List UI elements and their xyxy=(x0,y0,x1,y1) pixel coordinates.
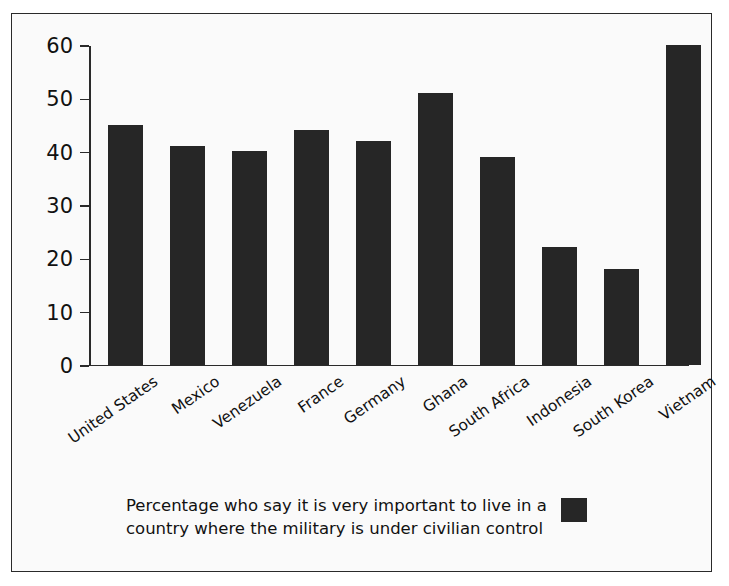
y-axis-tick: 30 xyxy=(80,205,89,207)
x-axis-category-label: Vietnam xyxy=(657,374,719,424)
x-axis-category-label: Ghana xyxy=(420,374,470,416)
chart-figure: 0102030405060 United StatesMexicoVenezue… xyxy=(11,13,712,572)
x-axis-category-label: France xyxy=(295,374,346,416)
y-axis-line xyxy=(89,46,91,366)
legend-caption: Percentage who say it is very important … xyxy=(126,495,547,541)
x-axis-category-label: Germany xyxy=(341,374,408,428)
y-axis-tick: 40 xyxy=(80,152,89,154)
plot-area: 0102030405060 xyxy=(89,46,689,366)
y-axis-tick: 50 xyxy=(80,99,89,101)
x-axis-line xyxy=(89,365,689,367)
bar xyxy=(356,141,391,365)
chart-legend: Percentage who say it is very important … xyxy=(126,495,686,541)
bar xyxy=(480,157,515,365)
bar xyxy=(604,269,639,365)
y-axis-tick-label: 40 xyxy=(46,142,73,163)
y-axis-tick: 60 xyxy=(80,45,89,47)
bar xyxy=(542,247,577,364)
x-axis-category-label: United States xyxy=(66,374,161,447)
legend-color-swatch xyxy=(561,498,587,522)
y-axis-tick-label: 60 xyxy=(46,36,73,57)
y-axis-tick-label: 20 xyxy=(46,249,73,270)
y-axis-tick-label: 30 xyxy=(46,196,73,217)
bar xyxy=(108,125,143,365)
legend-caption-line-1: Percentage who say it is very important … xyxy=(126,495,547,518)
bar xyxy=(294,130,329,365)
bar xyxy=(418,93,453,365)
bar xyxy=(170,146,205,365)
legend-caption-line-2: country where the military is under civi… xyxy=(126,518,547,541)
y-axis-tick-label: 10 xyxy=(46,302,73,323)
x-axis-category-label: Venezuela xyxy=(210,374,284,432)
bar xyxy=(666,45,701,365)
x-axis-category-label: Mexico xyxy=(169,374,222,418)
y-axis-tick: 10 xyxy=(80,312,89,314)
y-axis-tick-label: 50 xyxy=(46,89,73,110)
y-axis-tick: 0 xyxy=(80,365,89,367)
y-axis-tick: 20 xyxy=(80,259,89,261)
bar xyxy=(232,151,267,364)
y-axis-tick-label: 0 xyxy=(60,356,73,377)
